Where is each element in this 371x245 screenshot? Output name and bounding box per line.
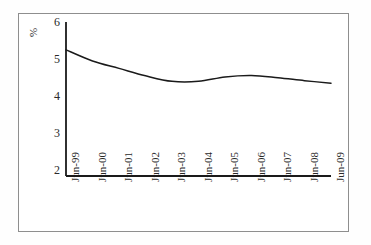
- chart-figure: % 65432 Jun-99Jun-00Jun-01Jun-02Jun-03Ju…: [0, 0, 371, 245]
- chart-plot-area: [0, 0, 371, 245]
- axes-group: [66, 22, 331, 176]
- data-series-line: [66, 50, 331, 83]
